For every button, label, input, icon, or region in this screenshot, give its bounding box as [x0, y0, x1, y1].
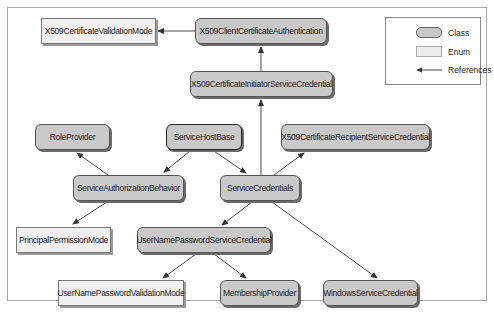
node-windows-service-credential: WindowsServiceCredential — [323, 280, 418, 306]
node-principal-permission-mode: PrincipalPermissionMode — [16, 227, 111, 253]
node-username-password-service-credential: UserNamePasswordServiceCredential — [137, 227, 271, 253]
node-username-password-validation-mode: UserNamePasswordValidationMode — [58, 280, 184, 306]
legend-class-label: Class — [448, 28, 469, 38]
edge-hostbase-credentials — [214, 151, 246, 173]
node-x509-certificate-validation-mode: X509CertificateValidationMode — [41, 18, 156, 44]
legend-references-label: References — [448, 65, 491, 75]
node-x509-client-certificate-authentication: X509ClientCertificateAuthentication — [195, 18, 327, 44]
edge-servicecredentials-recipient — [274, 153, 304, 175]
edge-usernamecredential-validationmode — [163, 254, 196, 278]
legend-row-references: References — [386, 65, 491, 75]
legend-row-enum: Enum — [386, 46, 470, 57]
edge-credentials-usernamecredential — [222, 202, 252, 225]
node-x509-certificate-initiator-service-credential: X509CertificateInitiatorServiceCredentia… — [190, 71, 333, 97]
node-service-host-base: ServiceHostBase — [166, 124, 242, 150]
legend-enum-label: Enum — [448, 47, 470, 57]
edge-authbehavior-principalmode — [73, 202, 107, 224]
edge-usernamecredential-membership — [214, 254, 246, 278]
node-service-authorization-behavior: ServiceAuthorizationBehavior — [73, 175, 184, 201]
legend: Class Enum References — [385, 17, 481, 85]
node-x509-certificate-recipient-service-credential: X509CertificateRecipientServiceCredentia… — [281, 124, 430, 150]
node-membership-provider: MembershipProvider — [220, 280, 299, 306]
edge-authbehavior-roleprovider — [77, 153, 108, 175]
edge-hostbase-authbehavior — [164, 151, 190, 172]
enum-swatch-icon — [416, 46, 442, 57]
class-swatch-icon — [416, 27, 442, 38]
legend-row-class: Class — [386, 27, 469, 38]
node-service-credentials: ServiceCredentials — [220, 175, 300, 201]
reference-arrow-icon — [416, 66, 442, 74]
node-role-provider: RoleProvider — [35, 124, 110, 150]
edge-credentials-windowscredential — [272, 202, 377, 278]
